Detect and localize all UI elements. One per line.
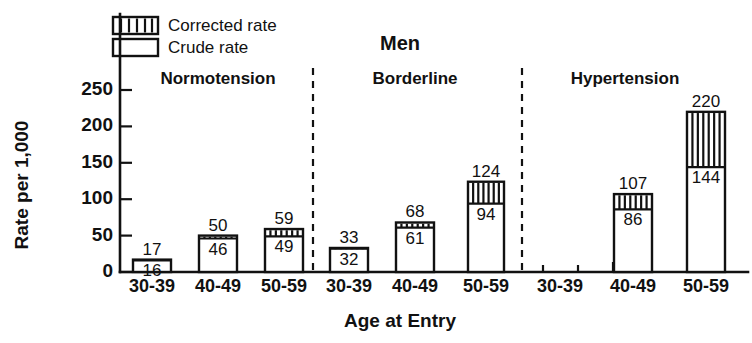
- value-label-crude-n-40-49: 46: [209, 240, 228, 259]
- value-label-corrected-b-50-59: 124: [472, 162, 500, 181]
- value-label-crude-h-40-49: 86: [624, 210, 643, 229]
- value-label-corrected-b-40-49: 68: [406, 202, 425, 221]
- x-tick-label-n-4049: 40-49: [195, 276, 241, 296]
- value-label-corrected-b-30-39: 33: [340, 228, 359, 247]
- x-axis-minor-ticks-hypertension-3039: [543, 262, 613, 272]
- bar-h-40-49: [614, 194, 652, 272]
- bar-h-50-59: [687, 112, 725, 272]
- bar-b-50-59: [468, 182, 504, 272]
- legend-item-corrected: Corrected rate: [113, 16, 277, 35]
- y-tick-label-200: 200: [81, 114, 113, 135]
- value-label-corrected-h-50-59: 220: [692, 92, 720, 111]
- value-label-crude-b-40-49: 61: [406, 229, 425, 248]
- value-label-crude-n-50-59: 49: [275, 237, 294, 256]
- x-tick-label-h-4049: 40-49: [610, 276, 656, 296]
- x-tick-label-b-4049: 40-49: [392, 276, 438, 296]
- value-label-crude-h-50-59: 144: [692, 168, 720, 187]
- y-tick-label-50: 50: [92, 224, 113, 245]
- group-label-normotension: Normotension: [160, 69, 275, 88]
- y-axis-ticks: 0 50 100 150 200 250: [81, 78, 132, 281]
- y-tick-label-150: 150: [81, 151, 113, 172]
- legend-label-crude: Crude rate: [168, 38, 248, 57]
- x-tick-label-b-5059: 50-59: [463, 276, 509, 296]
- group-label-borderline: Borderline: [372, 69, 457, 88]
- bar-chart: Corrected rate Crude rate Men Normotensi…: [0, 0, 752, 343]
- value-label-corrected-n-50-59: 59: [275, 209, 294, 228]
- x-tick-label-b-3039: 30-39: [326, 276, 372, 296]
- value-label-crude-b-30-39: 32: [340, 250, 359, 269]
- y-axis-title: Rate per 1,000: [11, 121, 32, 250]
- chart-container: Corrected rate Crude rate Men Normotensi…: [0, 0, 752, 343]
- x-axis-tick-labels: 30-39 40-49 50-59 30-39 40-49 50-59 30-3…: [129, 276, 729, 296]
- group-label-hypertension: Hypertension: [571, 69, 680, 88]
- chart-legend: Corrected rate Crude rate: [113, 16, 277, 57]
- y-tick-label-100: 100: [81, 187, 113, 208]
- x-tick-label-n-3039: 30-39: [129, 276, 175, 296]
- value-label-corrected-n-30-39: 17: [143, 240, 162, 259]
- value-label-crude-b-50-59: 94: [477, 205, 496, 224]
- value-label-corrected-n-40-49: 50: [209, 216, 228, 235]
- value-label-corrected-h-40-49: 107: [619, 174, 647, 193]
- x-tick-label-h-3039: 30-39: [537, 276, 583, 296]
- y-tick-label-0: 0: [102, 260, 113, 281]
- legend-label-corrected: Corrected rate: [168, 16, 277, 35]
- x-tick-label-h-5059: 50-59: [683, 276, 729, 296]
- x-tick-label-n-5059: 50-59: [261, 276, 307, 296]
- y-tick-label-250: 250: [81, 78, 113, 99]
- legend-item-crude: Crude rate: [113, 38, 248, 57]
- x-axis-title: Age at Entry: [344, 310, 456, 331]
- chart-title: Men: [380, 32, 420, 54]
